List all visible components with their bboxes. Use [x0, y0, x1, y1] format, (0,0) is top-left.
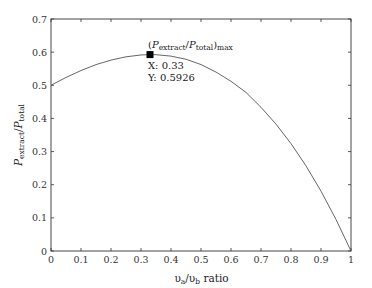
x-tick-label: 0.5	[193, 254, 208, 265]
x-tick-label: 0.8	[283, 254, 298, 265]
x-tick-label: 0.1	[73, 254, 88, 265]
x-tick-label: 1	[348, 254, 354, 265]
x-tick-label: 0	[48, 254, 54, 265]
plot-frame	[51, 19, 351, 251]
y-tick-label: 0	[41, 246, 47, 257]
line-chart: 00.10.20.30.40.50.60.70.80.91 00.10.20.3…	[0, 0, 372, 288]
max-annotation-x: X: 0.33	[148, 60, 184, 71]
data-series-line	[51, 55, 351, 251]
max-annotation-label: (Pextract/Ptotal)max	[148, 39, 234, 52]
y-tick-label: 0.7	[32, 14, 47, 25]
x-tick-label: 0.9	[313, 254, 328, 265]
x-axis-label: υa/υb ratio	[174, 272, 228, 286]
y-tick-label: 0.4	[32, 113, 47, 124]
max-annotation-y: Y: 0.5926	[147, 72, 195, 83]
y-axis-label: Pextract/Ptotal	[12, 103, 26, 167]
x-tick-label: 0.2	[103, 254, 118, 265]
x-tick-label: 0.7	[253, 254, 268, 265]
y-tick-label: 0.1	[32, 212, 47, 223]
y-tick-label: 0.5	[32, 80, 47, 91]
y-tick-label: 0.6	[32, 47, 47, 58]
y-tick-label: 0.3	[32, 146, 47, 157]
x-tick-label: 0.6	[223, 254, 238, 265]
y-axis: 00.10.20.30.40.50.60.7	[32, 14, 351, 257]
x-axis: 00.10.20.30.40.50.60.70.80.91	[48, 19, 354, 265]
x-tick-label: 0.4	[163, 254, 178, 265]
y-tick-label: 0.2	[32, 179, 47, 190]
max-point-marker	[147, 51, 154, 58]
x-tick-label: 0.3	[133, 254, 148, 265]
